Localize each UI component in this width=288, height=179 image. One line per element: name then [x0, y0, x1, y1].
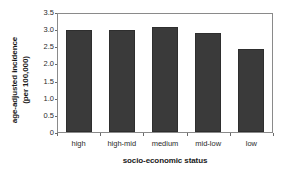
x-axis-tick-mark: [273, 133, 274, 136]
x-axis-tick-mark: [100, 133, 101, 136]
bar-slot: [101, 14, 144, 132]
y-axis-tick-label: 2.5: [32, 44, 54, 52]
y-axis-tick-label: 0.5: [32, 112, 54, 120]
x-axis-tick-mark: [143, 133, 144, 136]
bar-series: [58, 14, 272, 132]
y-axis-tick-label: 3.5: [32, 9, 54, 17]
plot-area: [57, 13, 273, 133]
x-axis-tick-mark: [187, 133, 188, 136]
x-axis-tick-label: low: [230, 138, 273, 150]
x-axis-tick-labels: highhigh-midmediummid-lowlow: [57, 138, 273, 150]
x-axis-tick-mark: [57, 133, 58, 136]
bar-high: [66, 30, 92, 133]
x-axis-tick-label: mid-low: [187, 138, 230, 150]
x-axis-tick-mark: [230, 133, 231, 136]
bar-slot: [144, 14, 187, 132]
y-axis-title-line-2: (per 100,000): [20, 56, 31, 104]
bar-slot: [186, 14, 229, 132]
y-axis-tick-label: 1.0: [32, 95, 54, 103]
bar-slot: [58, 14, 101, 132]
y-axis-tick-label: 3.0: [32, 26, 54, 34]
y-axis-tick-label: 1.5: [32, 78, 54, 86]
bar-slot: [229, 14, 272, 132]
x-axis-tick-label: medium: [143, 138, 186, 150]
bar-low: [238, 49, 264, 132]
x-axis-tick-label: high-mid: [100, 138, 143, 150]
y-axis-title: age-adjusted incidence (per 100,000): [8, 28, 32, 132]
bar-medium: [152, 27, 178, 132]
bar-chart-figure: age-adjusted incidence (per 100,000) 00.…: [0, 0, 288, 179]
x-axis-tick-marks: [57, 133, 273, 137]
x-axis-tick-label: high: [57, 138, 100, 150]
x-axis-title: socio-economic status: [57, 156, 273, 165]
y-axis-tick-label: 2.0: [32, 61, 54, 69]
y-axis-tick-label: 0: [32, 129, 54, 137]
y-axis-ticks: 00.51.01.52.02.53.03.5: [32, 13, 54, 133]
y-axis-title-line-1: age-adjusted incidence: [9, 37, 20, 123]
bar-high-mid: [109, 30, 135, 132]
bar-mid-low: [195, 33, 221, 132]
